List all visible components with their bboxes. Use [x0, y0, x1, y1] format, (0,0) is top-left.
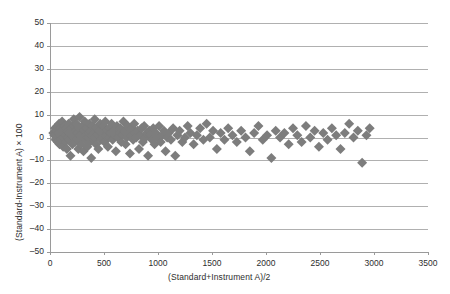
y-tick-label: 50: [20, 17, 44, 27]
data-point: [189, 139, 199, 149]
y-tick-label: 10: [20, 109, 44, 119]
y-tick-label: –40: [20, 223, 44, 233]
x-tick-label: 2000: [246, 258, 286, 268]
y-tick-label: 40: [20, 40, 44, 50]
data-point: [245, 146, 255, 156]
x-tick-label: 1000: [138, 258, 178, 268]
y-tick-label: 20: [20, 86, 44, 96]
data-series-points: [48, 112, 374, 168]
data-point: [301, 121, 311, 131]
x-tick-label: 3500: [408, 258, 448, 268]
data-point: [111, 146, 121, 156]
y-tick-label: –30: [20, 200, 44, 210]
y-tick-label: –20: [20, 177, 44, 187]
data-point: [212, 144, 222, 154]
x-tick-label: 1500: [192, 258, 232, 268]
data-point: [314, 142, 324, 152]
y-tick-label: 0: [20, 132, 44, 142]
plot-canvas: [0, 0, 450, 294]
x-axis-title: (Standard+Instrument A)/2: [168, 272, 270, 282]
data-point: [340, 128, 350, 138]
data-point: [336, 144, 346, 154]
data-point: [266, 153, 276, 163]
data-point: [161, 146, 171, 156]
data-point: [143, 151, 153, 161]
x-tick-label: 3000: [354, 258, 394, 268]
data-point: [86, 153, 96, 163]
y-tick-label: –50: [20, 246, 44, 256]
data-point: [357, 158, 367, 168]
data-point: [284, 139, 294, 149]
data-point: [125, 149, 135, 159]
data-point: [170, 151, 180, 161]
y-tick-label: 30: [20, 63, 44, 73]
x-tick-label: 2500: [300, 258, 340, 268]
scatter-chart: (Standard-Instrument A) × 100 (Standard+…: [0, 0, 450, 294]
data-point: [344, 119, 354, 129]
x-tick-label: 0: [30, 258, 70, 268]
y-tick-label: –10: [20, 154, 44, 164]
x-tick-label: 500: [84, 258, 124, 268]
